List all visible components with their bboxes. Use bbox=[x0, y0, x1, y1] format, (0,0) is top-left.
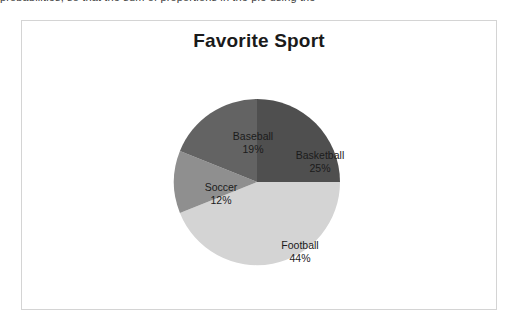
pie-label-soccer: Soccer 12% bbox=[192, 181, 250, 206]
pie-label-baseball-value: 19% bbox=[220, 143, 286, 156]
pie-label-basketball-name: Basketball bbox=[283, 149, 357, 162]
pie-label-football-name: Football bbox=[265, 239, 335, 252]
pie-label-soccer-name: Soccer bbox=[192, 181, 250, 194]
pie-label-basketball: Basketball 25% bbox=[283, 149, 357, 174]
pie-label-football-value: 44% bbox=[265, 252, 335, 265]
pie-label-baseball: Baseball 19% bbox=[220, 130, 286, 155]
chart-title: Favorite Sport bbox=[22, 30, 496, 52]
pie-label-baseball-name: Baseball bbox=[220, 130, 286, 143]
pie-label-soccer-value: 12% bbox=[192, 194, 250, 207]
cropped-body-text: probabilities, so that the sum of propor… bbox=[0, 0, 519, 4]
pie-label-basketball-value: 25% bbox=[283, 162, 357, 175]
chart-frame: Favorite Sport Basketball 25% Baseball 1… bbox=[21, 20, 497, 310]
pie-label-football: Football 44% bbox=[265, 239, 335, 264]
